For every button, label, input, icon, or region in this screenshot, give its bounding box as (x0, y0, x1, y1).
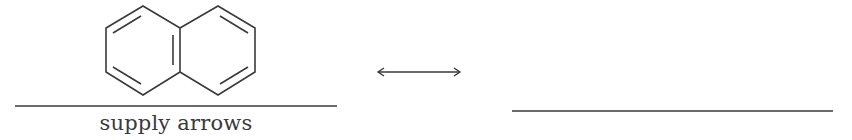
left-ring (106, 6, 180, 95)
right-ring (180, 6, 255, 95)
caption-supply-arrows: supply arrows (15, 111, 337, 135)
double-bond-right-bottom (220, 67, 248, 84)
double-bond-left-bottom (113, 67, 141, 84)
double-bond-right-top (220, 16, 248, 33)
double-bond-left-top (113, 16, 141, 33)
resonance-arrow (378, 68, 460, 76)
naphthalene-structure (106, 6, 255, 95)
